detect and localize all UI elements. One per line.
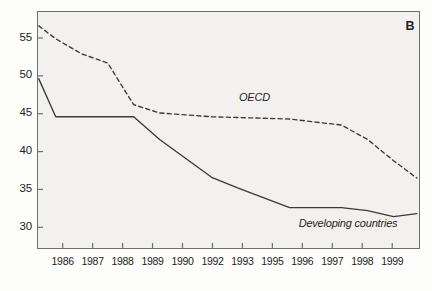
y-tick-label: 35 [8,182,32,194]
x-tick-label: 1999 [372,255,412,267]
series-line-developing-countries [39,79,417,217]
chart-figure: 303540455055 198619871988198919901992199… [0,0,432,291]
series-label-oecd: OECD [239,91,270,103]
y-tick-label: 30 [8,220,32,232]
y-tick-label: 55 [8,31,32,43]
chart-canvas [0,0,432,291]
series-label-developing-countries: Developing countries [299,217,398,229]
y-tick-label: 45 [8,106,32,118]
data-series-group [39,26,417,217]
series-line-oecd [39,26,417,178]
y-tick-label: 50 [8,68,32,80]
y-tick-label: 40 [8,144,32,156]
panel-label: B [406,19,415,33]
